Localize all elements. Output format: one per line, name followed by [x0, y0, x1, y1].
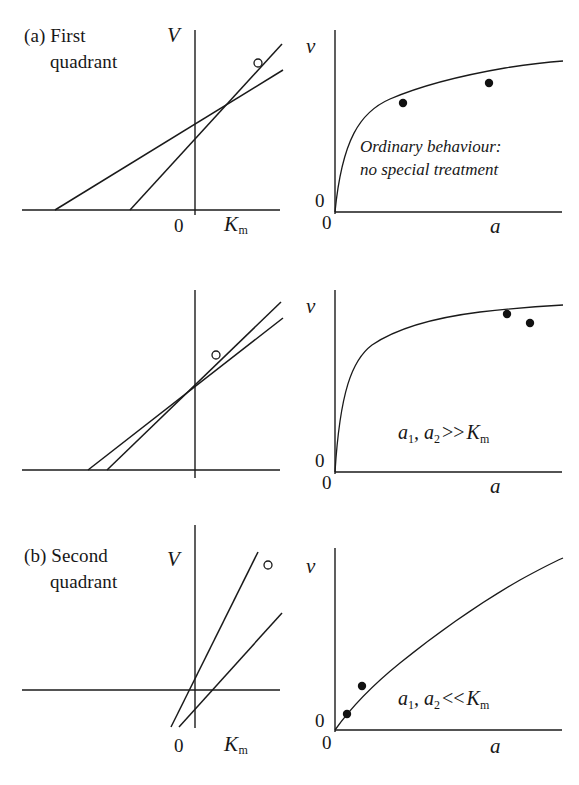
panel-a-right-origin-label-x: 0	[322, 213, 332, 232]
condition-a2: a	[424, 421, 434, 443]
condition-operator: >>	[440, 421, 467, 443]
panel-b-right-origin-label-y: 0	[315, 451, 325, 470]
condition-operator: <<	[440, 687, 467, 709]
data-point	[526, 319, 534, 327]
data-point	[343, 710, 351, 718]
condition-a1: a	[398, 687, 408, 709]
panel-b-right-y-axis-label: v	[306, 296, 315, 317]
panel-a-origin-label: 0	[174, 216, 184, 235]
annotation-line1: Ordinary behaviour:	[360, 135, 502, 158]
data-point	[358, 682, 366, 690]
condition-a1-sub: 1	[408, 698, 414, 712]
data-point	[503, 310, 511, 318]
panel-c-right-origin-label-y: 0	[315, 711, 325, 730]
annotation-line2: no special treatment	[360, 158, 502, 181]
condition-a1: a	[398, 421, 408, 443]
condition-km: K	[467, 421, 480, 443]
panel-a-right-origin-label-y: 0	[315, 191, 325, 210]
condition-separator: ,	[414, 687, 424, 709]
panel-a-right-annotation: Ordinary behaviour: no special treatment	[360, 135, 502, 182]
panel-a-caption-line1: (a) First	[24, 25, 86, 46]
panel-a-x-axis-label-base: K	[224, 212, 238, 236]
data-point	[399, 99, 407, 107]
panel-c-right-condition-annotation: a1, a2<<Km	[398, 688, 489, 708]
data-point	[485, 79, 493, 87]
condition-separator: ,	[414, 421, 424, 443]
panel-b-right-svg	[290, 260, 579, 520]
regression-line-1	[55, 70, 283, 210]
condition-a2-sub: 2	[434, 698, 440, 712]
panel-a-y-axis-label: V	[167, 25, 180, 46]
panel-b-right-condition-annotation: a1, a2>>Km	[398, 422, 489, 442]
panel-a-caption: (a) First quadrant	[24, 26, 117, 71]
panel-c-right-origin-label-x: 0	[322, 733, 332, 752]
panel-a-left-direct-linear-plot: (a) First quadrant V 0 Km	[0, 0, 290, 260]
panel-b-right-saturation-plot: v 0 0 a a1, a2>>Km	[290, 260, 579, 520]
panel-a-right-y-axis-label: v	[306, 36, 315, 57]
panel-c-right-x-axis-label: a	[490, 736, 501, 757]
regression-line-2	[107, 302, 281, 470]
panel-c-right-saturation-plot: v 0 0 a a1, a2<<Km	[290, 520, 579, 785]
condition-km-sub: m	[480, 698, 489, 712]
figure-enzyme-kinetics-quadrants: (a) First quadrant V 0 Km v 0 0 a Ordina…	[0, 0, 579, 785]
panel-a-caption-line2: quadrant	[50, 52, 117, 71]
regression-line-1	[171, 552, 258, 727]
panel-a-right-saturation-plot: v 0 0 a Ordinary behaviour: no special t…	[290, 0, 579, 260]
open-circle-marker	[264, 561, 272, 569]
panel-a-x-axis-label-sub: m	[239, 223, 248, 237]
panel-a-x-axis-label: Km	[224, 214, 247, 235]
open-circle-marker	[254, 59, 262, 67]
panel-c-left-svg	[0, 520, 290, 785]
panel-b-left-direct-linear-plot: (b) Second quadrant V 0 Km	[0, 260, 290, 520]
michaelis-menten-curve	[335, 305, 563, 472]
panel-c-left-direct-linear-plot: (c) Third quadrant V Km	[0, 520, 290, 785]
panel-a-right-x-axis-label: a	[490, 216, 501, 237]
condition-km-sub: m	[480, 432, 489, 446]
condition-a1-sub: 1	[408, 432, 414, 446]
condition-km: K	[467, 687, 480, 709]
condition-a2-sub: 2	[434, 432, 440, 446]
panel-b-right-x-axis-label: a	[490, 476, 501, 497]
panel-c-right-svg	[290, 520, 579, 785]
regression-line-2	[130, 44, 282, 210]
panel-b-left-svg	[0, 260, 290, 520]
condition-a2: a	[424, 687, 434, 709]
panel-b-right-origin-label-x: 0	[322, 473, 332, 492]
open-circle-marker	[212, 351, 220, 359]
panel-a-right-svg	[290, 0, 579, 260]
panel-c-right-y-axis-label: v	[306, 556, 315, 577]
